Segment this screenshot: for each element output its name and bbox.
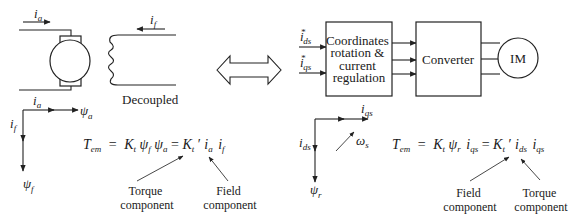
induction-motor-label: IM [510, 51, 526, 66]
armature-lead-top [19, 30, 71, 36]
ids-ref-label: i*ds [300, 27, 312, 46]
vector-omega-label: ωs [356, 133, 369, 150]
coordinates-rotation-label: Coordinates rotation & current regulatio… [326, 33, 392, 85]
torque-annotation-arrow [137, 156, 183, 181]
decoupled-label: Decoupled [122, 92, 179, 107]
im-torque-annotation: Torque component [514, 186, 568, 214]
im-field-annotation: Field component [443, 186, 497, 214]
dc-torque-equation: Tem = Kt ψf ψa = Kt ′ ia if [83, 137, 226, 155]
vector-psif-label: ψf [23, 176, 35, 194]
dc-vs-induction-machine-diagram: ia if Decoupled ia ψa if ψf [0, 0, 581, 222]
im-field-annotation-arrow [470, 157, 509, 181]
im-vector-diagram: iqs ids ωs ψr [299, 101, 373, 200]
double-arrow-icon [217, 56, 281, 84]
dc-armature-icon [50, 40, 90, 82]
vector-ids-label: ids [299, 135, 311, 152]
field-annotation-arrow [209, 157, 228, 181]
vector-ia-label: ia [33, 93, 42, 110]
dc-vector-diagram: ia ψa if ψf [10, 93, 93, 194]
vector-psia-label: ψa [80, 103, 93, 121]
iqs-ref-label: i*qs [300, 53, 312, 72]
vector-iqs-label: iqs [361, 101, 373, 118]
dc-torque-annotation: Torque component [120, 184, 174, 212]
im-torque-annotation-arrow [521, 159, 540, 180]
im-drive-section: i*ds i*qs Coordinates rotation & current… [299, 22, 568, 214]
field-current-arrow: if [137, 12, 165, 29]
rotation-omega-arrow [336, 132, 354, 151]
armature-current-arrow: ia [23, 6, 50, 23]
im-torque-equation: Tem = Kt ψr iqs = Kt ′ ids iqs [392, 137, 545, 155]
vector-psir-label: ψr [310, 182, 322, 200]
dc-machine-section: ia if Decoupled ia ψa if ψf [10, 6, 257, 212]
armature-current-label: ia [34, 6, 43, 23]
field-coil-icon [109, 35, 177, 85]
converter-label: Converter [422, 52, 475, 67]
field-current-label: if [150, 12, 158, 29]
dc-field-annotation: Field component [203, 184, 257, 212]
vector-if-label: if [10, 116, 18, 133]
